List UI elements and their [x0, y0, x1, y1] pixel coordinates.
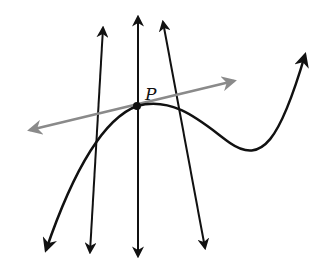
- secant-line-right: [163, 22, 205, 248]
- tangent-line-diagram: P: [0, 0, 333, 262]
- point-p: [133, 102, 141, 110]
- point-p-label: P: [144, 84, 157, 104]
